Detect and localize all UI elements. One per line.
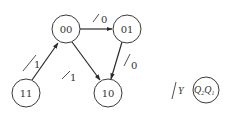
- state-node-10: 10: [94, 79, 122, 107]
- state-label-01: 01: [121, 24, 134, 35]
- legend-output-label: Y: [178, 85, 185, 96]
- state-label-11: 11: [20, 88, 33, 99]
- state-node-00: 00: [52, 15, 80, 43]
- edge-00-to-10: 1: [62, 42, 100, 83]
- edge-label-11-00: 1: [34, 59, 40, 70]
- state-node-01: 01: [113, 15, 141, 43]
- legend: Y Q2Q1: [172, 77, 219, 103]
- legend-state-vars: Q2Q1: [194, 84, 214, 96]
- edge-11-to-00: 1: [23, 43, 58, 80]
- edge-01-to-10: 0: [111, 42, 137, 79]
- state-node-11: 11: [12, 79, 40, 107]
- edge-label-00-01: 0: [101, 14, 107, 25]
- state-label-10: 10: [102, 88, 115, 99]
- edge-label-01-10: 0: [131, 60, 137, 71]
- state-label-00: 00: [60, 24, 73, 35]
- state-diagram: 0 0 1 1 00 01 10 11 Y Q2Q1: [0, 0, 233, 121]
- edge-label-00-10: 1: [70, 72, 76, 83]
- edge-00-to-01: 0: [80, 14, 112, 29]
